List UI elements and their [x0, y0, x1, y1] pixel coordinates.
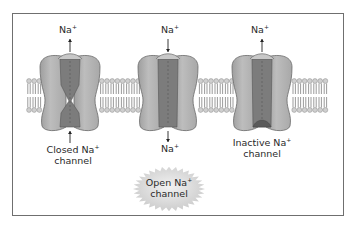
lipid-tail — [314, 97, 316, 108]
lipid-head — [37, 108, 42, 113]
lipid — [198, 79, 203, 113]
lipid-head — [120, 108, 125, 113]
lipid-head — [110, 79, 115, 84]
lipid-head — [229, 108, 234, 113]
lipid — [209, 79, 214, 113]
lipid-tail — [220, 97, 222, 108]
lipid-head — [224, 79, 229, 84]
lipid-tail — [314, 84, 316, 95]
lipid-tail — [210, 84, 212, 95]
lipid-tail — [205, 97, 207, 108]
lipid-head — [125, 108, 130, 113]
lipid-tail — [132, 97, 134, 108]
lipid-tail — [121, 97, 123, 108]
lipid-head — [307, 79, 312, 84]
lipid-tail — [38, 97, 40, 108]
lipid-tail — [33, 97, 35, 108]
inactive-channel-label: Inactive Na+ channel — [222, 137, 302, 159]
lipid-tail — [231, 97, 233, 108]
closed-channel-label: Closed Na+ channel — [33, 144, 113, 166]
lipid-head — [203, 79, 208, 84]
ion-label-open-top: Na+ — [155, 24, 185, 35]
lipid — [105, 79, 110, 113]
lipid-tail — [28, 97, 30, 108]
lipid — [292, 79, 297, 113]
lipid-head — [115, 108, 120, 113]
lipid — [297, 79, 302, 113]
lipid — [110, 79, 115, 113]
lipid-head — [105, 108, 110, 113]
lipid-tail — [309, 84, 311, 95]
channel-closed — [40, 54, 100, 131]
lipid-tail — [106, 97, 108, 108]
lipid — [302, 79, 307, 113]
open-channel-label: Open Na+ channel — [133, 177, 205, 199]
lipid-tail — [132, 84, 134, 95]
arrow-down-open-top-head — [166, 49, 170, 52]
lipid — [313, 79, 318, 113]
lipid-tail — [121, 84, 123, 95]
lipid-tail — [293, 84, 295, 95]
lipid-head — [209, 79, 214, 84]
lipid-tail — [101, 84, 103, 95]
lipid-tail — [231, 84, 233, 95]
lipid-tail — [309, 97, 311, 108]
lipid — [318, 79, 323, 113]
lipid-tail — [127, 84, 129, 95]
lipid-tail — [205, 84, 207, 95]
channel-cap — [250, 54, 274, 59]
lipid-tail — [106, 84, 108, 95]
lipid-head — [302, 108, 307, 113]
lipid — [224, 79, 229, 113]
lipid — [37, 79, 42, 113]
channels-group — [40, 54, 292, 131]
channel-open — [138, 54, 198, 131]
lipid-tail — [324, 97, 326, 108]
lipid-tail — [28, 84, 30, 95]
lipid-tail — [111, 84, 113, 95]
ion-label-inactive-top: Na+ — [245, 24, 275, 35]
lipid-tail — [215, 97, 217, 108]
lipid — [115, 79, 120, 113]
lipid — [214, 79, 219, 113]
channel-cap — [156, 54, 180, 59]
lipid-tail — [116, 84, 118, 95]
lipid-tail — [225, 84, 227, 95]
lipid-tail — [33, 84, 35, 95]
channel-inactive — [232, 54, 292, 131]
lipid-head — [99, 79, 104, 84]
lipid-head — [198, 79, 203, 84]
lipid-head — [318, 108, 323, 113]
lipid-tail — [293, 97, 295, 108]
lipid-head — [302, 79, 307, 84]
arrow-up-closed-bottom-head — [68, 131, 72, 134]
lipid-head — [307, 108, 312, 113]
lipid — [120, 79, 125, 113]
arrow-down-open-bottom-head — [166, 139, 170, 142]
lipid-tail — [319, 97, 321, 108]
lipid-tail — [199, 97, 201, 108]
lipid-head — [125, 79, 130, 84]
lipid-tail — [199, 84, 201, 95]
sodium-channel-diagram — [0, 0, 350, 235]
lipid-head — [297, 79, 302, 84]
lipid — [125, 79, 130, 113]
lipid-tail — [111, 97, 113, 108]
lipid — [131, 79, 136, 113]
lipid — [203, 79, 208, 113]
lipid-tail — [303, 97, 305, 108]
ion-label-open-bottom: Na+ — [155, 143, 185, 154]
lipid-head — [214, 108, 219, 113]
lipid-head — [292, 79, 297, 84]
lipid-head — [120, 79, 125, 84]
lipid-head — [131, 79, 136, 84]
lipid-tail — [303, 84, 305, 95]
lipid-tail — [116, 97, 118, 108]
lipid — [99, 79, 104, 113]
lipid-head — [313, 79, 318, 84]
lipid-head — [32, 79, 37, 84]
lipid — [219, 79, 224, 113]
lipid — [27, 79, 32, 113]
lipid-tail — [215, 84, 217, 95]
lipid-head — [209, 108, 214, 113]
